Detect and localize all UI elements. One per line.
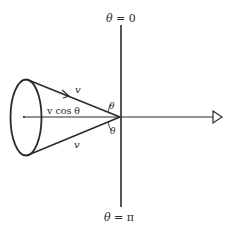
cone-diagram: θ = 0 θ = π v v v cos θ θ θ: [0, 0, 234, 227]
ellipse-center-dot: [23, 116, 25, 118]
bottom-axis-label: θ = π: [104, 211, 134, 224]
upper-angle-label: θ: [109, 101, 115, 111]
top-axis-label: θ = 0: [106, 12, 136, 25]
lower-edge-label: v: [74, 139, 80, 150]
upper-edge-label: v: [75, 84, 81, 95]
projection-label: v cos θ: [46, 105, 80, 116]
axis-arrowhead-icon: [213, 111, 222, 123]
lower-angle-label: θ: [110, 126, 116, 136]
